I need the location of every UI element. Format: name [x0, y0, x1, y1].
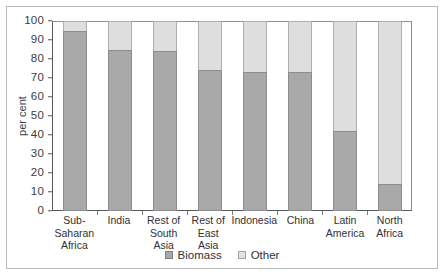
x-axis-label: Rest ofEast Asia	[186, 214, 231, 252]
x-axis-label-line: Rest of	[142, 214, 185, 227]
y-axis-tick: 40	[0, 129, 52, 141]
legend-item[interactable]: Other	[238, 249, 280, 261]
plot-wrapper	[52, 21, 412, 211]
y-axis-tick-label: 70	[31, 72, 48, 84]
bar-group	[52, 21, 97, 211]
x-axis-label-line: Sub-Saharan	[53, 214, 96, 239]
legend-item[interactable]: Biomass	[165, 249, 222, 261]
stacked-bar[interactable]	[153, 21, 177, 211]
x-axis-label: India	[97, 214, 142, 252]
x-axis-label-line: North	[368, 214, 411, 227]
x-axis-label-line: America	[324, 227, 367, 240]
bar-group	[232, 21, 277, 211]
y-axis-tick-label: 0	[37, 205, 48, 217]
y-axis-tick-label: 100	[24, 15, 48, 27]
x-axis-label: NorthAfrica	[367, 214, 412, 252]
y-axis-tick-label: 20	[31, 167, 48, 179]
x-axis-label-line: Rest of	[187, 214, 230, 227]
bar-segment-biomass[interactable]	[63, 31, 87, 212]
x-axis-label: Sub-SaharanAfrica	[52, 214, 97, 252]
stacked-bar[interactable]	[63, 21, 87, 211]
stacked-bar[interactable]	[243, 21, 267, 211]
bar-segment-other[interactable]	[153, 21, 177, 51]
legend-label: Other	[251, 249, 280, 261]
chart-legend: BiomassOther	[0, 249, 444, 261]
y-axis-tick: 100	[0, 15, 52, 27]
bar-segment-other[interactable]	[243, 21, 267, 72]
bar-group	[142, 21, 187, 211]
x-axis-label-line: Latin	[324, 214, 367, 227]
y-axis-tick: 70	[0, 72, 52, 84]
y-axis-tick-label: 90	[31, 34, 48, 46]
bar-segment-biomass[interactable]	[108, 50, 132, 212]
x-axis-label-line: India	[98, 214, 141, 227]
stacked-bar[interactable]	[333, 21, 357, 211]
bar-segment-other[interactable]	[198, 21, 222, 70]
stacked-bar[interactable]	[108, 21, 132, 211]
x-axis-label-line	[98, 227, 141, 240]
x-axis-label-line	[279, 227, 322, 240]
y-axis-tick-label: 60	[31, 91, 48, 103]
bar-segment-biomass[interactable]	[243, 72, 267, 211]
y-axis-tick-label: 10	[31, 186, 48, 198]
bar-group	[322, 21, 367, 211]
x-axis-label-line: China	[279, 214, 322, 227]
bar-segment-other[interactable]	[63, 21, 87, 31]
y-axis-tick: 0	[0, 205, 52, 217]
other-swatch	[238, 251, 246, 259]
bar-segment-biomass[interactable]	[198, 70, 222, 211]
y-axis-tick: 60	[0, 91, 52, 103]
stacked-bar[interactable]	[378, 21, 402, 211]
y-axis-tick: 20	[0, 167, 52, 179]
bar-segment-biomass[interactable]	[288, 72, 312, 211]
x-axis-label: China	[278, 214, 323, 252]
y-axis-tick: 80	[0, 53, 52, 65]
bar-series-container	[52, 21, 412, 211]
bar-segment-other[interactable]	[108, 21, 132, 50]
y-axis-tick: 10	[0, 186, 52, 198]
chart-figure: per cent 0102030405060708090100 Sub-Saha…	[0, 0, 444, 277]
y-axis-tick: 90	[0, 34, 52, 46]
bar-segment-biomass[interactable]	[333, 131, 357, 211]
x-axis-label-line	[232, 227, 278, 240]
x-axis-label: LatinAmerica	[323, 214, 368, 252]
y-axis-tick-label: 80	[31, 53, 48, 65]
bar-segment-other[interactable]	[378, 21, 402, 184]
bar-segment-biomass[interactable]	[378, 184, 402, 211]
bar-group	[277, 21, 322, 211]
bar-group	[97, 21, 142, 211]
x-axis-label-line: South Asia	[142, 227, 185, 252]
legend-label: Biomass	[178, 249, 222, 261]
y-axis-tick: 50	[0, 110, 52, 122]
stacked-bar[interactable]	[288, 21, 312, 211]
bar-group	[367, 21, 412, 211]
x-axis-label: Indonesia	[231, 214, 279, 252]
x-axis-label-line: Africa	[368, 227, 411, 240]
y-axis-tick-label: 30	[31, 148, 48, 160]
x-axis-label: Rest ofSouth Asia	[141, 214, 186, 252]
bar-segment-biomass[interactable]	[153, 51, 177, 211]
bar-segment-other[interactable]	[333, 21, 357, 131]
y-axis-tick-label: 40	[31, 129, 48, 141]
biomass-swatch	[165, 251, 173, 259]
x-axis-label-line: East Asia	[187, 227, 230, 252]
y-axis: 0102030405060708090100	[0, 21, 52, 211]
y-axis-tick-label: 50	[31, 110, 48, 122]
stacked-bar[interactable]	[198, 21, 222, 211]
x-axis-labels: Sub-SaharanAfricaIndia Rest ofSouth Asia…	[52, 214, 412, 252]
x-axis-label-line: Indonesia	[232, 214, 278, 227]
y-axis-tick: 30	[0, 148, 52, 160]
bar-group	[187, 21, 232, 211]
bar-segment-other[interactable]	[288, 21, 312, 72]
